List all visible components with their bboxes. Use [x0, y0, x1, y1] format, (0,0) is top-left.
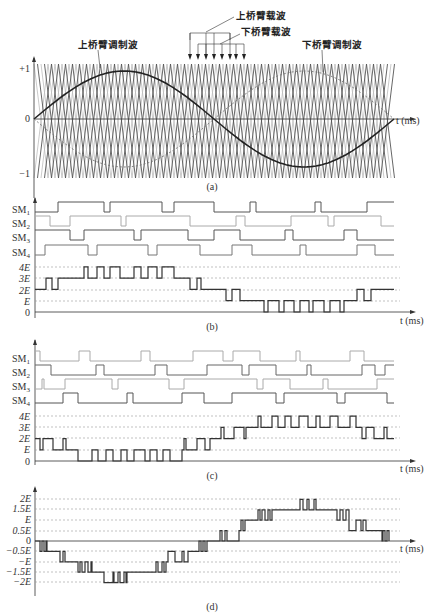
panel-d: 2E1.5EE0.5E0−0.5E−E−1.5E−2E t (ms) (d): [6, 486, 424, 613]
y-axis-arrow-icon: [33, 486, 37, 492]
y-tick-d: E: [24, 514, 31, 525]
sm2-label-b: SM2: [12, 218, 30, 231]
y-tick-2E-b: 2E: [19, 285, 30, 296]
panel-a: +1 0 −1 t (ms) 上桥臂调制波 上桥臂载波 下桥臂载波 下桥臂调制波…: [19, 10, 419, 198]
y-tick-d: −2E: [13, 576, 31, 587]
panel-b-gridlines: [35, 267, 400, 301]
panel-b-submodule-signals: [35, 202, 394, 255]
y-tick-minus1: −1: [19, 168, 30, 179]
y-tick-d: 1.5E: [12, 503, 31, 514]
x-axis-arrow-icon: [410, 310, 416, 314]
sm1-label-b: SM1: [12, 204, 30, 217]
y-tick-0: 0: [25, 113, 30, 124]
y-tick-d: −0.5E: [6, 545, 31, 556]
lower-modulation-leader: [322, 50, 323, 72]
y-tick-0-c: 0: [25, 456, 30, 467]
caption-c: (c): [206, 470, 217, 482]
sm4-label-b: SM4: [12, 247, 30, 260]
panel-d-y-ticks: 2E1.5EE0.5E0−0.5E−E−1.5E−2E: [6, 493, 31, 587]
panel-b-output-waveform: [35, 267, 394, 312]
sm2-label-c: SM2: [12, 367, 30, 380]
upper-modulation-leader: [98, 50, 100, 68]
panel-c: SM1 SM2 SM3 SM4 4E 3E 2E E 0 t (ms) (c): [12, 339, 424, 482]
upper-carrier-label: 上桥臂载波: [236, 10, 286, 21]
y-axis-arrow-icon: [33, 339, 37, 345]
x-axis-label-a: t (ms): [396, 115, 420, 127]
y-tick-3E-c: 3E: [18, 422, 30, 433]
lower-carrier-label: 下桥臂载波: [241, 26, 291, 37]
y-tick-E-c: E: [23, 444, 30, 455]
y-tick-plus1: +1: [19, 63, 30, 74]
y-tick-2E-c: 2E: [19, 433, 30, 444]
y-tick-4E-b: 4E: [19, 262, 30, 273]
panel-c-output-waveform: [35, 416, 394, 461]
sm3-label-b: SM3: [12, 232, 30, 245]
y-tick-4E-c: 4E: [19, 411, 30, 422]
caption-a: (a): [206, 181, 217, 193]
panel-c-submodule-signals: [35, 351, 394, 403]
y-axis-arrow-icon: [32, 56, 36, 62]
figure-canvas: +1 0 −1 t (ms) 上桥臂调制波 上桥臂载波 下桥臂载波 下桥臂调制波…: [0, 0, 442, 616]
y-tick-0-b: 0: [25, 307, 30, 318]
carrier-bracket: [190, 17, 244, 55]
x-axis-label-b: t (ms): [400, 315, 424, 327]
y-tick-E-b: E: [23, 296, 30, 307]
lower-modulation-label: 下桥臂调制波: [302, 39, 362, 50]
panel-c-gridlines: [35, 416, 400, 450]
sm3-label-c: SM3: [12, 381, 30, 394]
carrier-arrowheads: [188, 54, 246, 60]
y-tick-3E-b: 3E: [18, 273, 30, 284]
caption-d: (d): [206, 601, 218, 613]
x-axis-label-d: t (ms): [400, 543, 424, 555]
caption-b: (b): [206, 321, 218, 333]
sm1-label-c: SM1: [12, 353, 30, 366]
sm4-label-c: SM4: [12, 395, 30, 408]
upper-modulation-label: 上桥臂调制波: [78, 39, 138, 50]
panel-b: SM1 SM2 SM3 SM4 4E 3E 2E E 0 t (ms) (b): [12, 197, 424, 333]
x-axis-label-c: t (ms): [400, 463, 424, 475]
